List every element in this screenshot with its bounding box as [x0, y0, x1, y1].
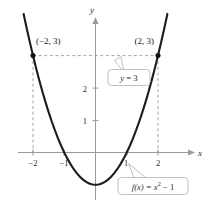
- callout-function-tail: [129, 164, 147, 179]
- y-tick-label-1: 1: [83, 116, 87, 126]
- point-marker-right: [156, 53, 161, 58]
- graph-figure: y x −2 −1 1 2 1 2 (−2, 3) (2, 3) y = 3 f…: [0, 0, 215, 210]
- x-tick-label-2: 2: [156, 158, 160, 168]
- x-tick-label-1: 1: [124, 158, 128, 168]
- parabola-plot: y x −2 −1 1 2 1 2 (−2, 3) (2, 3) y = 3 f…: [0, 0, 215, 210]
- x-tick-label-neg2: −2: [28, 158, 37, 168]
- y-axis-arrowhead: [92, 17, 98, 24]
- point-label-right: (2, 3): [135, 36, 155, 46]
- callout-function-text: f(x) = x2 − 1: [132, 180, 174, 191]
- y-axis-label: y: [89, 5, 94, 15]
- callout-function-rest: (x) = x: [134, 182, 158, 192]
- point-label-left: (−2, 3): [36, 36, 61, 46]
- callout-y3-text: y = 3: [119, 73, 137, 83]
- callout-function: f(x) = x2 − 1: [118, 164, 188, 195]
- y-tick-label-2: 2: [83, 84, 87, 94]
- point-marker-left: [31, 53, 36, 58]
- callout-function-tail-text: − 1: [161, 182, 174, 192]
- x-axis-label: x: [197, 148, 202, 158]
- callout-y3-rest: = 3: [124, 73, 137, 83]
- x-axis-arrowhead: [188, 149, 195, 155]
- callout-y-equals-3: y = 3: [108, 57, 150, 86]
- x-tick-label-neg1: −1: [59, 158, 68, 168]
